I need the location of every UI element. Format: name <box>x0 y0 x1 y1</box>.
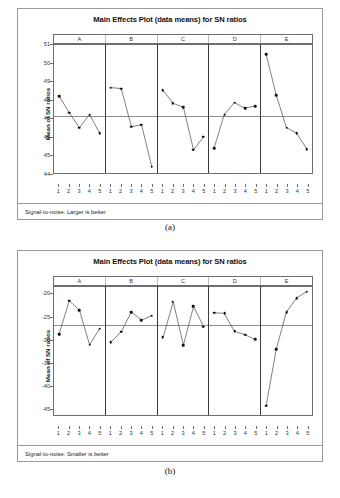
series-c <box>158 286 209 416</box>
x-tick-mark <box>79 184 80 187</box>
x-axis-group-e: 12345 <box>261 184 313 196</box>
data-point <box>140 123 143 126</box>
x-axis-group-c: 12345 <box>157 184 209 196</box>
x-tick-label: 4 <box>136 426 146 438</box>
x-tick-label: 4 <box>240 184 250 196</box>
x-tick-mark <box>297 184 298 187</box>
x-tick-label: 4 <box>240 426 250 438</box>
x-tick-mark <box>69 426 70 429</box>
x-tick-label: 3 <box>126 184 136 196</box>
y-axis-label-a: Mean of SN ratios <box>44 88 51 140</box>
x-axis-group-d: 12345 <box>209 184 261 196</box>
x-axis-a: 1234512345123451234512345 <box>53 184 313 196</box>
panel-header-d: D <box>209 277 261 285</box>
panel-header-a: A <box>54 277 106 285</box>
x-tick-mark <box>110 426 111 429</box>
x-tick-mark <box>204 426 205 429</box>
panel-header-label: A <box>78 278 82 284</box>
data-point <box>88 343 91 346</box>
series-c <box>158 44 209 174</box>
x-tick-mark <box>277 426 278 429</box>
x-tick-label: 3 <box>74 184 84 196</box>
panel-header-label: D <box>233 278 237 284</box>
panel-header-c: C <box>158 35 210 43</box>
y-tick-mark <box>50 363 53 364</box>
panel-header-label: E <box>285 36 289 42</box>
data-point <box>285 311 288 314</box>
x-tick-label: 3 <box>230 426 240 438</box>
y-tick-mark <box>50 386 53 387</box>
x-tick-label: 3 <box>74 426 84 438</box>
panel-a <box>54 286 106 416</box>
footnote-a: Signal-to-noise: Larger is better <box>25 209 106 215</box>
panel-header-e: E <box>261 35 312 43</box>
data-point <box>254 105 257 108</box>
data-point <box>68 111 71 114</box>
panel-header-label: D <box>233 36 237 42</box>
data-point <box>244 333 247 336</box>
x-tick-label: 3 <box>230 184 240 196</box>
data-point <box>172 300 175 303</box>
x-tick-mark <box>141 426 142 429</box>
panel-header-strip-a: ABCDE <box>53 34 313 44</box>
x-tick-mark <box>152 426 153 429</box>
data-point <box>285 126 288 129</box>
data-point <box>213 312 216 315</box>
data-point <box>295 132 298 135</box>
x-tick-mark <box>214 184 215 187</box>
x-tick-label: 5 <box>147 426 157 438</box>
figure-b: Main Effects Plot (data means) for SN ra… <box>17 250 323 462</box>
y-tick-mark <box>50 174 53 175</box>
footnote-divider-a <box>17 203 323 204</box>
footnote-divider-b <box>17 445 323 446</box>
x-tick-mark <box>245 426 246 429</box>
x-axis-group-e: 12345 <box>261 426 313 438</box>
x-tick-label: 5 <box>199 426 209 438</box>
panel-header-label: B <box>129 278 133 284</box>
x-axis-group-b: 12345 <box>105 184 157 196</box>
panel-header-label: A <box>78 36 82 42</box>
x-tick-label: 2 <box>271 426 281 438</box>
plot-area-b: ABCDE -20-25-30-35-40-45 <box>53 276 313 426</box>
x-tick-label: 1 <box>261 184 271 196</box>
x-tick-mark <box>193 184 194 187</box>
data-point <box>223 113 226 116</box>
x-axis-group-a: 12345 <box>53 184 105 196</box>
x-tick-mark <box>162 184 163 187</box>
data-point <box>265 53 268 56</box>
x-tick-mark <box>256 184 257 187</box>
data-point <box>213 147 216 150</box>
data-point <box>202 136 205 139</box>
x-tick-label: 5 <box>147 184 157 196</box>
y-tick-mark <box>50 44 53 45</box>
data-point <box>130 311 133 314</box>
x-tick-label: 1 <box>53 426 63 438</box>
chart-title-b: Main Effects Plot (data means) for SN ra… <box>17 257 323 266</box>
x-tick-mark <box>173 426 174 429</box>
panels-b <box>53 286 313 416</box>
series-b <box>106 286 157 416</box>
data-point <box>140 319 143 322</box>
x-tick-mark <box>110 184 111 187</box>
data-point <box>110 86 113 89</box>
x-axis-group-a: 12345 <box>53 426 105 438</box>
panel-c <box>158 44 210 174</box>
x-tick-mark <box>256 426 257 429</box>
x-tick-label: 1 <box>261 426 271 438</box>
y-tick-mark <box>50 155 53 156</box>
x-tick-label: 5 <box>251 426 261 438</box>
x-tick-label: 5 <box>95 426 105 438</box>
data-point <box>275 348 278 351</box>
x-tick-label: 4 <box>188 426 198 438</box>
panel-e <box>261 44 312 174</box>
x-tick-label: 5 <box>303 426 313 438</box>
panel-b <box>106 44 158 174</box>
x-tick-mark <box>193 426 194 429</box>
data-point <box>120 331 123 334</box>
figure-a: Main Effects Plot (data means) for SN ra… <box>17 8 323 220</box>
panel-e <box>261 286 312 416</box>
x-tick-label: 1 <box>105 184 115 196</box>
data-point <box>120 87 123 90</box>
y-tick-mark <box>50 81 53 82</box>
x-tick-mark <box>235 426 236 429</box>
